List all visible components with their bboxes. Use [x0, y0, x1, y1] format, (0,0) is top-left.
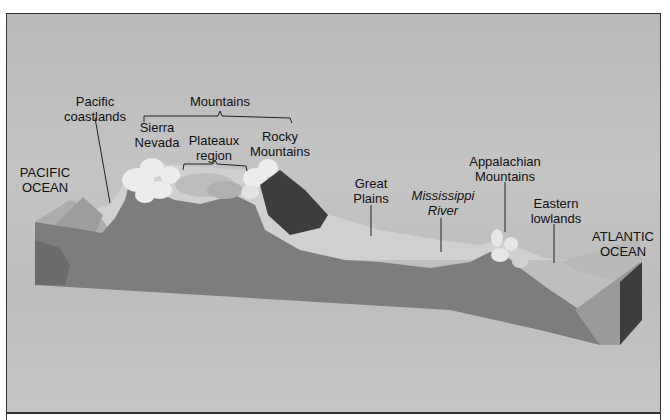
- label-line: Eastern: [531, 196, 582, 211]
- label-line: PACIFIC: [20, 165, 70, 180]
- label-line: River: [412, 203, 475, 218]
- pacific-coastlands-leader: [95, 118, 110, 203]
- label-line: Mountains: [469, 169, 541, 184]
- label-pacific-ocean: PACIFIC OCEAN: [20, 165, 70, 195]
- label-line: Appalachian: [469, 154, 541, 169]
- label-line: Plateaux: [189, 133, 240, 148]
- label-line: ATLANTIC: [592, 229, 654, 244]
- label-line: Pacific: [64, 94, 126, 109]
- label-line: Mississippi: [412, 188, 475, 203]
- label-eastern-lowlands: Eastern lowlands: [531, 196, 582, 226]
- label-sierra-nevada: Sierra Nevada: [135, 120, 180, 150]
- label-line: Great: [353, 176, 388, 191]
- label-great-plains: Great Plains: [353, 176, 388, 206]
- label-line: lowlands: [531, 211, 582, 226]
- label-line: Plains: [353, 191, 388, 206]
- label-line: Nevada: [135, 135, 180, 150]
- label-pacific-coastlands: Pacific coastlands: [64, 94, 126, 124]
- label-rocky-mountains: Rocky Mountains: [250, 129, 310, 159]
- label-line: Sierra: [135, 120, 180, 135]
- label-line: coastlands: [64, 109, 126, 124]
- label-line: region: [189, 148, 240, 163]
- label-line: OCEAN: [20, 180, 70, 195]
- label-line: OCEAN: [592, 244, 654, 259]
- label-line: Mountains: [250, 144, 310, 159]
- label-plateaux-region: Plateaux region: [189, 133, 240, 163]
- label-appalachian-mountains: Appalachian Mountains: [469, 154, 541, 184]
- label-mountains: Mountains: [190, 94, 250, 109]
- label-mississippi-river: Mississippi River: [412, 188, 475, 218]
- label-line: Rocky: [250, 129, 310, 144]
- label-atlantic-ocean: ATLANTIC OCEAN: [592, 229, 654, 259]
- bottom-caption-strip: [6, 412, 661, 420]
